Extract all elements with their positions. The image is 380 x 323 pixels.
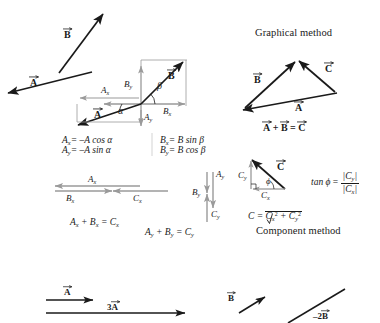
component-ax-label: Ax bbox=[101, 86, 109, 96]
y-group-equation: Ay + By = Cy bbox=[145, 228, 194, 238]
graphical-vector-b-label: B bbox=[254, 75, 261, 85]
axes-vector-b-label: B bbox=[168, 71, 175, 81]
angle-beta-label: β bbox=[157, 81, 162, 91]
graphical-triangle bbox=[243, 61, 337, 110]
component-by-label: By bbox=[124, 80, 132, 90]
axes-vector-b bbox=[141, 60, 187, 106]
tan-phi-formula: tan ϕ = |Cy||Cx| bbox=[311, 171, 359, 196]
y-group-cy-label: Cy bbox=[211, 210, 220, 220]
x-group-ax-label: Ax bbox=[88, 175, 96, 185]
scaling-vector-b-label: B bbox=[228, 294, 234, 303]
scaling-vector-neg2b-label: –2B bbox=[313, 312, 328, 321]
figure-geometry-layer bbox=[0, 0, 380, 323]
x-group-cx-label: Cx bbox=[133, 194, 142, 204]
component-ay-label: Ay bbox=[144, 113, 152, 123]
axes-vector-a-label: A bbox=[94, 110, 101, 120]
y-group-by-label: By bbox=[192, 188, 200, 198]
component-bx-label: Bx bbox=[163, 107, 171, 117]
x-group-bx-label: Bx bbox=[66, 194, 74, 204]
y-group-ay-label: Ay bbox=[216, 170, 224, 180]
scaling-vector-b bbox=[239, 297, 265, 313]
free-vector-a-label: A bbox=[30, 78, 37, 88]
scaling-vector-3a-label: 3A bbox=[107, 303, 118, 312]
axes-vector-a bbox=[77, 98, 141, 125]
graphical-method-heading: Graphical method bbox=[255, 28, 332, 39]
equation-by: By= B cos β bbox=[160, 146, 205, 156]
magnitude-formula: C = Cx2 + Cy2 bbox=[248, 211, 302, 222]
component-method-vector-c-label: C bbox=[277, 162, 284, 172]
free-vector-b bbox=[59, 14, 103, 73]
scaling-vector-a-label: A bbox=[64, 288, 71, 297]
free-vector-a bbox=[8, 72, 92, 93]
component-method-cx-label: Cx bbox=[261, 191, 270, 201]
component-method-heading: Component method bbox=[256, 226, 341, 237]
x-component-arrows bbox=[55, 186, 168, 191]
graphical-method-equation: A + B = C bbox=[263, 123, 306, 133]
graphical-vector-a-label: A bbox=[295, 103, 302, 113]
angle-phi-label: ϕ bbox=[266, 177, 271, 186]
angle-alpha-label: α bbox=[118, 106, 123, 116]
x-group-equation: Ax + Bx = Cx bbox=[70, 218, 119, 228]
equation-ay: Ay= –A sin α bbox=[62, 146, 111, 156]
component-method-cy-label: Cy bbox=[238, 171, 247, 181]
vector-addition-figure: B A B A β α Ax Ay Bx By Ax= –A cos α Ay=… bbox=[0, 0, 380, 323]
free-vector-b-label: B bbox=[64, 30, 71, 40]
graphical-vector-c-label: C bbox=[325, 64, 332, 74]
